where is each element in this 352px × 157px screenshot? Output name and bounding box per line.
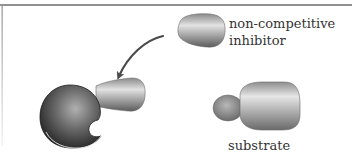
- enzyme-complex: [40, 78, 145, 148]
- left-border: [2, 6, 3, 146]
- enzyme-molecule: [40, 85, 101, 148]
- bound-inhibitor-molecule: [96, 78, 145, 111]
- substrate-label: substrate: [228, 137, 290, 154]
- inhibitor-label-line-2: inhibitor: [229, 32, 335, 49]
- binding-arrow-icon: [119, 36, 163, 76]
- non-competitive-inhibitor-label: non-competitive inhibitor: [229, 15, 335, 49]
- substrate-molecule: [213, 82, 300, 130]
- inhibitor-label-line-1: non-competitive: [229, 15, 335, 32]
- free-inhibitor-molecule: [178, 14, 225, 47]
